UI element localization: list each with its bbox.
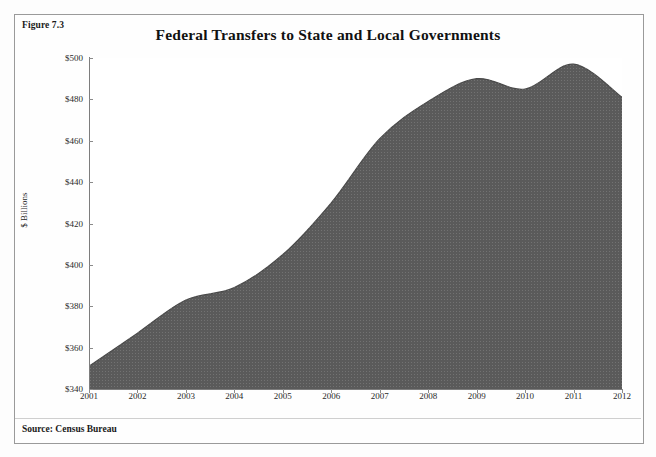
x-tick-label: 2007 (371, 391, 389, 401)
x-tick-label: 2001 (80, 391, 98, 401)
figure-page: Figure 7.3 Federal Transfers to State an… (0, 0, 656, 457)
source-note: Source: Census Bureau (22, 424, 117, 434)
x-tick-label: 2006 (322, 391, 340, 401)
x-tick-label: 2010 (516, 391, 534, 401)
source-divider (15, 418, 641, 419)
x-tick-label: 2011 (565, 391, 583, 401)
x-tick-label: 2008 (419, 391, 437, 401)
x-tick-label: 2009 (468, 391, 486, 401)
x-tick-label: 2003 (177, 391, 195, 401)
x-tick-label: 2002 (128, 391, 146, 401)
x-tick-label: 2012 (613, 391, 631, 401)
x-tick-label: 2004 (225, 391, 243, 401)
x-axis-ticks: 2001200220032004200520062007200820092010… (0, 0, 656, 457)
x-tick-label: 2005 (274, 391, 292, 401)
